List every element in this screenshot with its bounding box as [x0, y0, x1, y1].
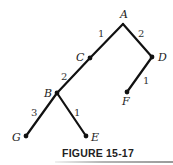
edge-a-c	[90, 24, 123, 58]
edge-weight-d-f: 1	[143, 75, 149, 86]
node-label-f: F	[121, 95, 130, 108]
edge-weight-a-c: 1	[98, 28, 104, 39]
node-label-a: A	[119, 8, 128, 21]
node-dot-g	[24, 134, 29, 139]
edge-weight-b-e: 1	[74, 107, 80, 118]
bottom-rule	[55, 161, 173, 163]
edges-group	[26, 24, 152, 136]
node-dot-e	[84, 134, 89, 139]
edge-weight-a-d: 2	[138, 28, 144, 39]
node-dot-f	[125, 90, 130, 95]
node-label-b: B	[43, 87, 52, 100]
node-dot-c	[88, 56, 93, 61]
node-dot-b	[55, 91, 60, 96]
edge-b-e	[57, 93, 86, 136]
node-dot-d	[150, 55, 155, 60]
edge-weight-b-g: 3	[31, 107, 37, 118]
tree-diagram: 122131 ACDBFGE	[0, 0, 173, 165]
node-label-e: E	[90, 131, 99, 144]
node-label-d: D	[157, 51, 167, 64]
node-label-c: C	[76, 51, 85, 64]
edge-weight-c-b: 2	[61, 71, 67, 82]
node-label-g: G	[12, 131, 21, 144]
figure-caption: FIGURE 15-17	[0, 147, 173, 159]
